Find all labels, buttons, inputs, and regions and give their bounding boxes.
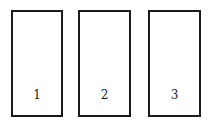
- box-2: 2: [78, 10, 131, 117]
- box-2-label: 2: [80, 89, 129, 101]
- box-3-label: 3: [150, 89, 199, 101]
- box-1-label: 1: [13, 89, 61, 101]
- box-3: 3: [148, 10, 201, 117]
- box-1: 1: [11, 10, 63, 117]
